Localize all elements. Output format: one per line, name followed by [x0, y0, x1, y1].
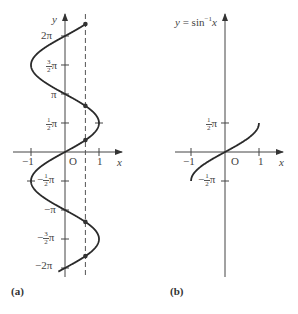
marked-point [83, 104, 88, 109]
pi-symbol: π [49, 173, 55, 185]
panel-b-caption: (b) [170, 285, 183, 297]
panel-a-y-tick-halfpi: 12π [46, 117, 57, 132]
panel-a-origin-label: O [69, 156, 77, 167]
panel-a-y-tick-neg-2pi: −2π [35, 260, 52, 271]
panel-b-x-axis-label: x [279, 157, 284, 168]
pi-symbol: π [49, 231, 55, 243]
marked-point [83, 254, 88, 259]
marked-point [83, 220, 88, 225]
panel-a-axes [13, 14, 122, 277]
pi-symbol: π [212, 117, 218, 129]
panel-a-y-tick-neg-3halfpi: −32π [37, 231, 54, 246]
panel-a-y-tick-neg-halfpi: −12π [37, 173, 54, 188]
panel-b-y-tick-neg-halfpi: −12π [198, 173, 215, 188]
marked-point [83, 22, 88, 27]
pi-symbol: π [52, 59, 58, 71]
panel-b-x-tick-pos1: 1 [258, 156, 264, 167]
panel-a-x-axis-label: x [117, 157, 122, 168]
panel-a-y-tick-pi: π [51, 89, 57, 100]
marked-point [83, 138, 88, 143]
panel-a-caption: (a) [11, 285, 24, 297]
panel-b-origin-label: O [231, 156, 239, 167]
panel-a-y-tick-2pi: 2π [41, 30, 52, 41]
panel-b-y-tick-halfpi: 12π [206, 117, 217, 132]
panel-a-y-axis-label: y [52, 14, 57, 25]
panel-a-x-tick-pos1: 1 [97, 156, 103, 167]
pi-symbol: π [210, 173, 216, 185]
panel-b-x-tick-neg1: −1 [183, 156, 195, 167]
panel-b-axes [175, 14, 283, 277]
panel-a-x-tick-neg1: −1 [22, 156, 34, 167]
panel-a-y-tick-neg-pi: −π [44, 204, 56, 215]
panel-a-y-tick-3halfpi: 32π [46, 59, 57, 74]
pi-symbol: π [52, 117, 58, 129]
panel-b-title: y = sin−1x [175, 16, 217, 28]
